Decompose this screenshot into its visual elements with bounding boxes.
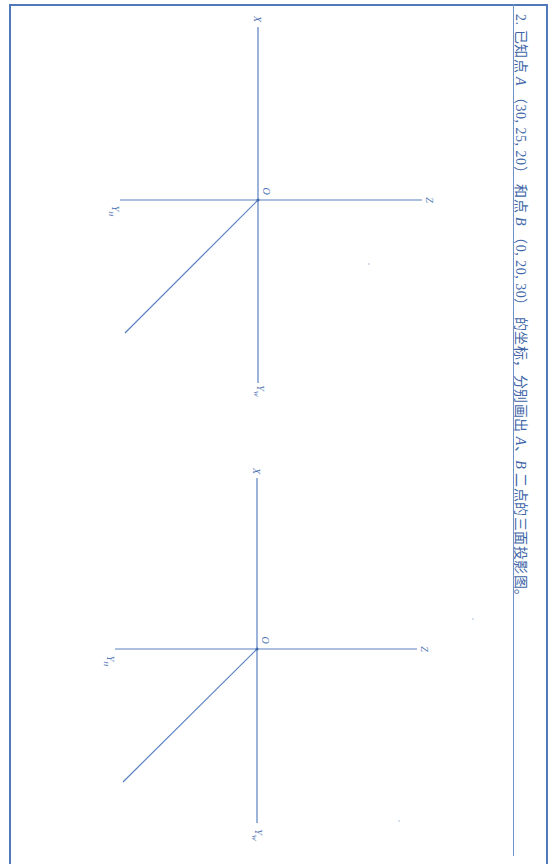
diagonal-45-1 [125, 200, 258, 333]
paper-speck [472, 618, 474, 620]
axis-label-yh: YH [106, 206, 120, 217]
axis-label-x: X [252, 16, 262, 22]
axis-label-z: Z [419, 646, 429, 652]
paper-speck [398, 820, 400, 822]
axis-label-yw: YW [249, 829, 263, 840]
axis-label-yh: YH [101, 656, 115, 667]
diagonal-45-2 [123, 649, 257, 782]
axis-label-yw: YW [251, 385, 265, 396]
axis-label-x: X [251, 468, 261, 474]
paper-speck [368, 263, 370, 265]
origin-label: O [260, 636, 270, 643]
axis-label-z: Z [424, 197, 434, 203]
origin-label: O [261, 187, 271, 194]
